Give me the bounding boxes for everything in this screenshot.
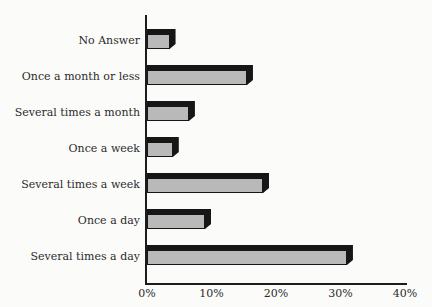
x-tick-label: 10% bbox=[187, 287, 237, 300]
x-tick-label: 30% bbox=[316, 287, 366, 300]
x-tick-label: 0% bbox=[122, 287, 172, 300]
x-tick-label: 40% bbox=[380, 287, 430, 300]
bar-chart: No AnswerOnce a month or lessSeveral tim… bbox=[0, 0, 432, 307]
x-axis-tick-labels: 0%10%20%30%40% bbox=[0, 0, 432, 307]
x-tick-label: 20% bbox=[251, 287, 301, 300]
